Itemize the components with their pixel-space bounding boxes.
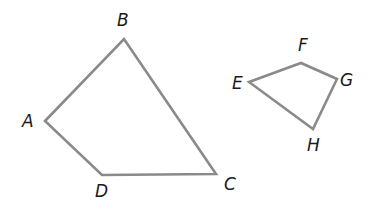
vertex-label-a: A (21, 111, 34, 131)
quadrilateral-abcd (45, 39, 216, 175)
vertex-label-g: G (340, 70, 353, 90)
vertex-label-d: D (95, 181, 108, 201)
vertex-label-f: F (298, 35, 308, 55)
vertex-label-h: H (307, 135, 320, 155)
vertex-label-c: C (224, 174, 236, 194)
quadrilateral-diagram: A B C D E F G H (0, 0, 387, 209)
quadrilateral-efgh (249, 63, 337, 129)
vertex-label-b: B (117, 10, 129, 30)
vertex-label-e: E (232, 73, 243, 93)
